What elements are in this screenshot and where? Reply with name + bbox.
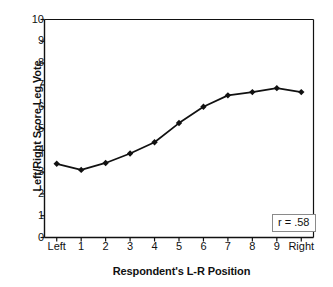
x-axis-title: Respondent's L-R Position xyxy=(0,265,333,277)
x-axis-tick-label: 3 xyxy=(127,240,133,252)
x-axis-tick-label: Right xyxy=(288,240,314,252)
x-axis-tick-label: 7 xyxy=(225,240,231,252)
x-axis-tick-labels: Left123456789Right xyxy=(0,0,333,287)
x-axis-tick-label: 9 xyxy=(274,240,280,252)
correlation-annotation: r = .58 xyxy=(272,214,316,232)
x-axis-tick-label: 6 xyxy=(200,240,206,252)
x-axis-tick-label: 2 xyxy=(103,240,109,252)
x-axis-tick-label: 1 xyxy=(78,240,84,252)
x-axis-tick-label: 4 xyxy=(151,240,157,252)
x-axis-tick-label: 8 xyxy=(249,240,255,252)
x-axis-tick-label: 5 xyxy=(176,240,182,252)
chart-figure: Left/Right Score Leg Vote 012345678910 L… xyxy=(0,0,333,287)
x-axis-tick-label: Left xyxy=(48,240,66,252)
